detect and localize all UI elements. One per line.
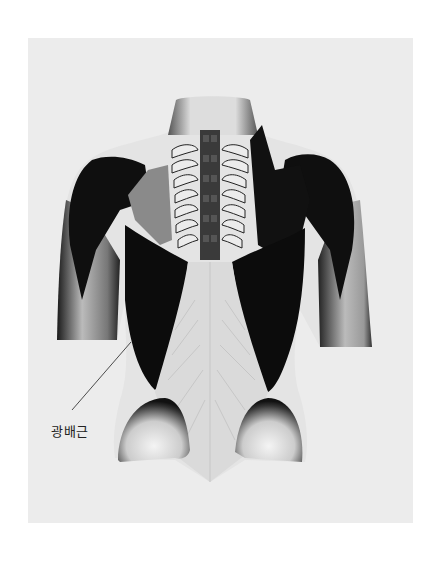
back-muscles-illustration [0,0,439,561]
neck [168,96,258,135]
latissimus-dorsi-label: 광배근 [51,421,89,440]
